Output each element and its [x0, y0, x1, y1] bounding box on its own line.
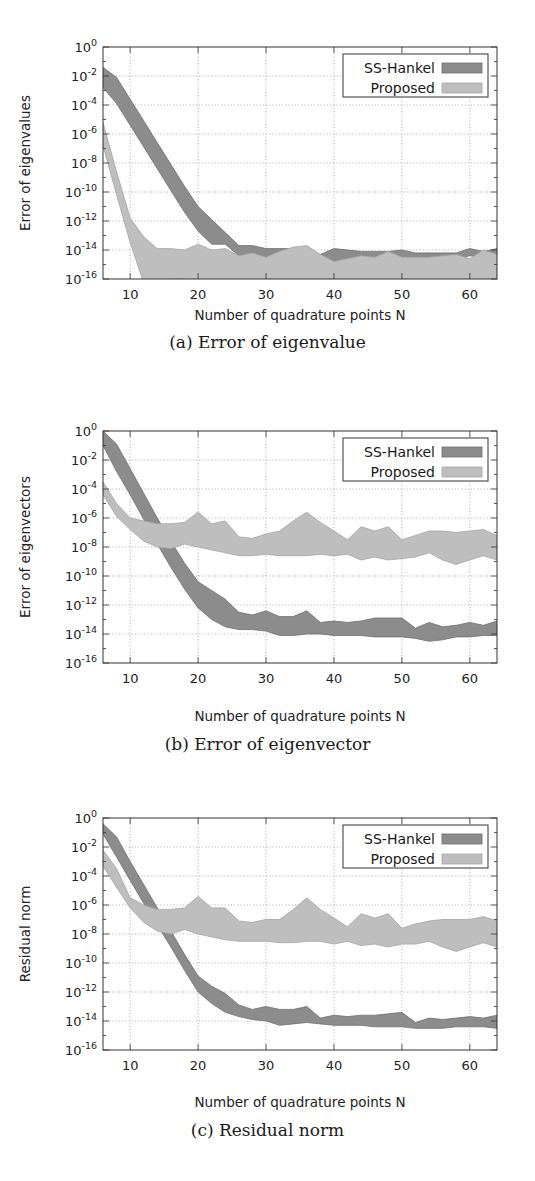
y-axis-label-wrap: Residual norm	[10, 818, 40, 1050]
legend: SS-HankelProposed	[343, 825, 488, 868]
y-tick-label: 10-8	[71, 924, 97, 942]
y-tick-label: 10-4	[71, 866, 97, 884]
x-axis-label: Number of quadrature points N	[103, 1094, 497, 1110]
y-tick-label: 10-6	[71, 895, 97, 913]
legend-label: Proposed	[371, 851, 435, 867]
y-axis-label: Residual norm	[17, 886, 33, 983]
x-tick-label: 20	[190, 1058, 207, 1073]
y-tick-label: 10-14	[65, 1011, 97, 1029]
y-tick-label: 10-16	[65, 1040, 97, 1058]
legend-swatch-ss-hankel	[442, 834, 482, 844]
x-tick-label: 60	[462, 1058, 479, 1073]
y-tick-label: 10-2	[71, 837, 97, 855]
figure-caption: (c) Residual norm	[0, 1120, 535, 1140]
legend-label: SS-Hankel	[364, 831, 435, 847]
y-tick-label: 10-12	[65, 982, 97, 1000]
chart-svg-c: 10010-210-410-610-810-1010-1210-1410-161…	[0, 0, 535, 1181]
legend-swatch-proposed	[442, 854, 482, 864]
x-tick-label: 30	[258, 1058, 275, 1073]
x-tick-label: 40	[326, 1058, 343, 1073]
y-tick-label: 100	[74, 808, 97, 826]
x-tick-label: 50	[394, 1058, 411, 1073]
y-tick-labels: 10010-210-410-610-810-1010-1210-1410-16	[65, 808, 97, 1058]
y-tick-label: 10-10	[65, 953, 97, 971]
x-tick-label: 10	[122, 1058, 139, 1073]
x-tick-labels: 102030405060	[122, 1058, 478, 1073]
chart-panel-c: 10010-210-410-610-810-1010-1210-1410-161…	[0, 0, 535, 1181]
